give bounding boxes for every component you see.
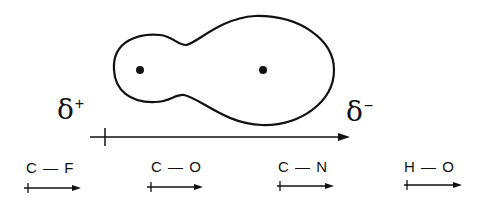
- dipole-arrow-main: [90, 128, 350, 146]
- partial-negative-label: δ−: [346, 98, 373, 126]
- nucleus-right: [259, 66, 267, 74]
- bond-arrow-c-f: [24, 183, 81, 193]
- bond-arrow-c-o: [147, 182, 203, 192]
- bond-label-c-f: C — F: [26, 159, 74, 176]
- bond-arrow-c-n: [277, 181, 334, 191]
- partial-positive-label: δ+: [57, 96, 84, 124]
- bond-arrow-h-o: [404, 180, 462, 190]
- bond-label-h-o: H — O: [404, 158, 455, 175]
- nucleus-left: [136, 66, 144, 74]
- bond-label-c-n: C — N: [278, 158, 328, 175]
- bond-label-c-o: C — O: [151, 158, 202, 175]
- electron-density-cloud: [114, 16, 334, 125]
